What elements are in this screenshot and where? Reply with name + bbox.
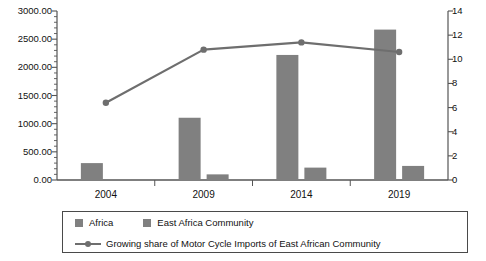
category-label-2019: 2019 — [369, 189, 429, 200]
right-axis-tick: 6 — [452, 103, 457, 113]
legend-row-line: Growing share of Motor Cycle Imports of … — [63, 233, 467, 254]
category-label-2014: 2014 — [271, 189, 331, 200]
right-axis-tick: 10 — [452, 54, 463, 64]
left-axis-tick: 500.00 — [0, 147, 52, 157]
legend-line-marker-icon — [75, 239, 101, 249]
legend-row-bars: Africa East Africa Community — [63, 212, 467, 233]
right-axis-tick: 12 — [452, 30, 463, 40]
right-axis-tick: 4 — [452, 127, 457, 137]
plot-area — [0, 0, 486, 205]
legend-swatch-africa — [75, 219, 83, 227]
chart-container: 0.00500.001000.001500.002000.002500.0030… — [0, 0, 486, 261]
legend-line-dot — [85, 241, 91, 247]
left-axis-tick: 2000.00 — [0, 62, 52, 72]
bar-series-group — [81, 30, 424, 180]
line-series-group — [103, 39, 403, 106]
left-axis-tick: 2500.00 — [0, 34, 52, 44]
right-axis-tick: 2 — [452, 151, 457, 161]
right-axis-tick: 8 — [452, 78, 457, 88]
category-label-2004: 2004 — [76, 189, 136, 200]
legend-label-east-africa-community: East Africa Community — [157, 217, 253, 228]
legend-label-africa: Africa — [89, 217, 113, 228]
left-axis-tick: 1000.00 — [0, 119, 52, 129]
category-label-2009: 2009 — [174, 189, 234, 200]
legend-label-growing-share: Growing share of Motor Cycle Imports of … — [106, 238, 381, 249]
right-axis-tick: 14 — [452, 6, 463, 16]
left-axis-tick: 3000.00 — [0, 6, 52, 16]
right-axis-tick: 0 — [452, 175, 457, 185]
left-axis-tick: 0.00 — [0, 175, 52, 185]
chart-legend: Africa East Africa Community Growing sha… — [62, 211, 468, 253]
legend-swatch-east-africa-community — [143, 219, 151, 227]
left-axis-tick: 1500.00 — [0, 91, 52, 101]
